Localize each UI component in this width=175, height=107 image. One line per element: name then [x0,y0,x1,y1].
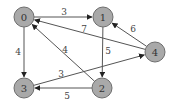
node-label: 0 [21,12,27,23]
edge-1-to-2 [102,27,103,77]
graph-canvas: 34567435 01234 [0,0,175,107]
edge-weight-label: 5 [105,46,111,56]
edge-weight-label: 4 [62,45,68,55]
graph-node-1: 1 [93,7,113,27]
graph-node-2: 2 [92,78,112,98]
edge-weight-label: 3 [58,69,64,79]
edge-weight-label: 4 [15,47,21,57]
edge-weight-label: 5 [64,91,70,101]
graph-node-4: 4 [145,42,165,62]
graph-node-0: 0 [14,7,34,27]
node-label: 2 [99,83,105,94]
graph-node-3: 3 [14,78,34,98]
node-label: 1 [100,12,106,23]
edge-weight-label: 7 [81,24,87,34]
edge-weight-label: 3 [61,7,67,17]
node-label: 4 [152,47,158,58]
edge-weight-label: 6 [130,24,136,34]
node-label: 3 [21,83,27,94]
edge-3-to-4 [34,55,145,86]
